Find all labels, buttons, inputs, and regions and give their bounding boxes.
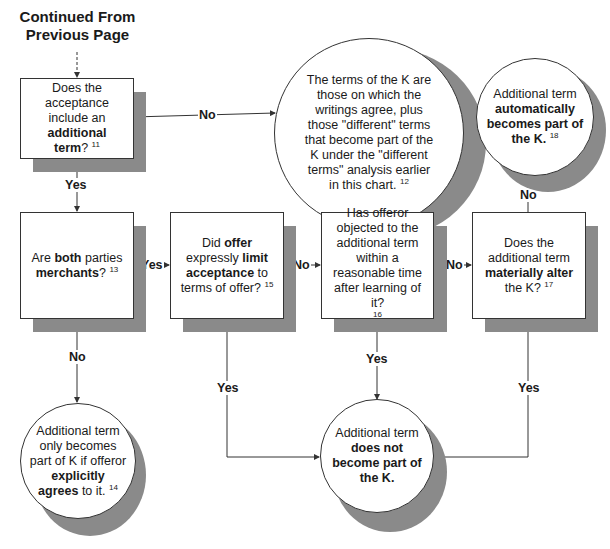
text: ? — [99, 266, 106, 280]
text: Additional term — [335, 426, 418, 440]
text-bold: agrees — [38, 484, 78, 498]
edge-label-alter-yes: Yes — [517, 381, 541, 395]
text: Does the additional term — [488, 236, 570, 265]
result-explicitly-agrees: Additional term only becomes part of K i… — [20, 403, 136, 519]
text: Did — [202, 236, 224, 250]
text-bold: offer — [224, 236, 252, 250]
edge-label-objected-yes: Yes — [365, 352, 389, 366]
text-bold: automatically becomes part of the K. — [487, 102, 584, 146]
edge-label-merchants-no: No — [68, 350, 87, 364]
footnote-ref: 12 — [400, 177, 409, 186]
decision-limit-acceptance: Did offer expressly limit acceptance to … — [170, 212, 284, 319]
text-bold: term — [54, 141, 81, 155]
footnote-ref: 11 — [92, 140, 100, 149]
result-terms-of-k: The terms of the K are those on which th… — [274, 38, 464, 228]
text-bold: explicitly — [51, 469, 105, 483]
text: Has offeror objected to the additional t… — [333, 206, 422, 310]
decision-materially-alter: Does the additional term materially alte… — [472, 212, 586, 319]
footnote-ref: 13 — [109, 264, 118, 273]
text: Does the acceptance include an — [45, 81, 109, 125]
text: The terms of the K are those on which th… — [305, 73, 434, 192]
footnote-ref: 18 — [550, 131, 559, 140]
text: Additional term — [493, 87, 576, 101]
text: to it. — [78, 484, 105, 498]
text: expressly — [186, 251, 242, 265]
footnote-ref: 14 — [109, 482, 118, 491]
footnote-ref: 15 — [264, 279, 273, 288]
text-bold: both — [54, 251, 81, 265]
decision-offeror-objected: Has offeror objected to the additional t… — [321, 212, 434, 319]
edge-label-q1-no: No — [198, 108, 217, 122]
decision-both-merchants: Are both parties merchants? 13 — [20, 212, 134, 319]
text: ? — [81, 141, 88, 155]
text: Additional term only becomes part of K i… — [30, 424, 126, 468]
result-does-not-become-part: Additional term does not become part of … — [320, 399, 434, 513]
text-bold: merchants — [36, 266, 99, 280]
text: Are — [31, 251, 54, 265]
text-bold: additional — [47, 126, 106, 140]
edge-label-objected-no: No — [445, 258, 464, 272]
edge-label-q1-yes: Yes — [64, 178, 88, 192]
edge-label-limit-yes: Yes — [216, 381, 240, 395]
text: parties — [82, 251, 123, 265]
decision-additional-term: Does the acceptance include an additiona… — [20, 78, 134, 159]
footnote-ref: 17 — [544, 279, 553, 288]
text: the K? — [505, 281, 541, 295]
result-automatically-part: Additional term automatically becomes pa… — [476, 58, 594, 176]
footnote-ref: 16 — [373, 309, 382, 318]
text-bold: does not become part of the K. — [332, 441, 422, 485]
text-bold: materially alter — [485, 266, 573, 280]
